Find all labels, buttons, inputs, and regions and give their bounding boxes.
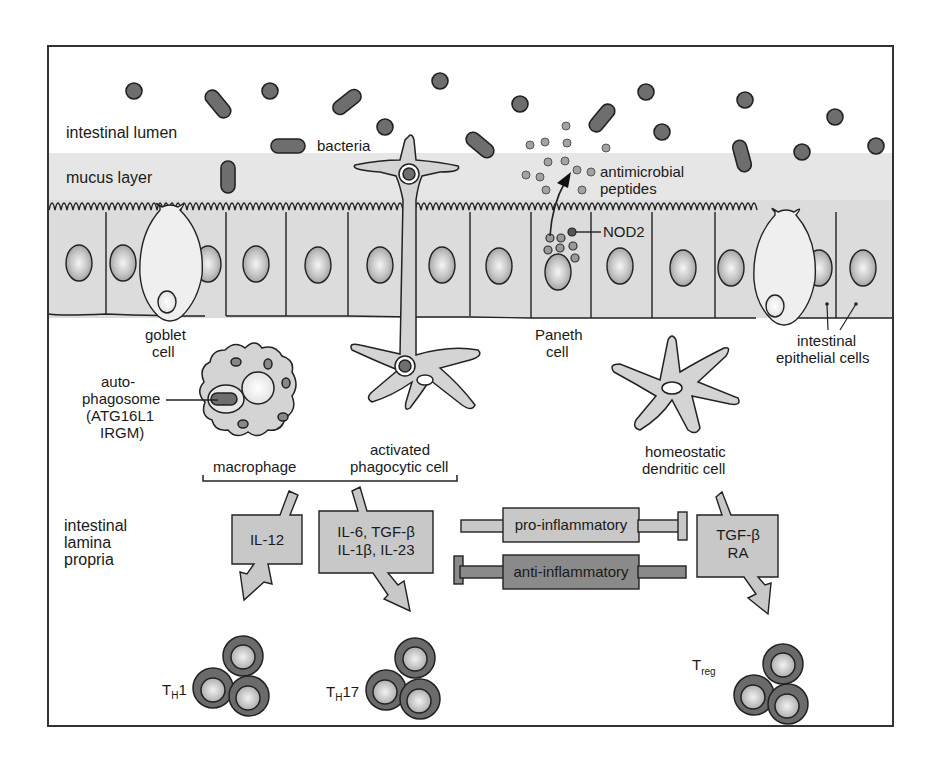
homeostatic-label: homeostatic <box>645 443 726 460</box>
pro-inflammatory-label: pro-inflammatory <box>515 516 628 533</box>
bacteria-label: bacteria <box>317 137 371 154</box>
macrophage-label: macrophage <box>213 458 296 475</box>
paneth-cell-label: cell <box>546 343 569 360</box>
treg-cytokines-line-1: TGF-β <box>716 526 760 543</box>
peptides-label: peptides <box>600 180 657 197</box>
activated-label: activated <box>370 441 430 458</box>
nod2-marker <box>568 228 576 236</box>
figure-frame <box>48 46 893 726</box>
autophagosome-label-2: phagosome <box>82 390 160 407</box>
intestinal-epithelial-label: intestinal <box>797 332 856 349</box>
autophagosome-label-1: auto- <box>101 373 135 390</box>
autophagosome-label-4: IRGM) <box>100 424 144 441</box>
intestinal-lumen-label: intestinal lumen <box>66 124 177 141</box>
phagocytic-cell-label: phagocytic cell <box>350 458 448 475</box>
anti-inflammatory-label: anti-inflammatory <box>513 563 629 580</box>
pointer-dot <box>854 302 858 306</box>
th17-cytokines-line-2: IL-1β, IL-23 <box>338 541 415 558</box>
pointer-dot <box>825 302 829 306</box>
lamina-label-2: lamina <box>64 534 111 551</box>
th17-cytokines-line-1: IL-6, TGF-β <box>337 523 415 540</box>
dendritic-cell-label: dendritic cell <box>642 460 725 477</box>
macrophage <box>200 343 296 436</box>
antimicrobial-label: antimicrobial <box>600 163 684 180</box>
treg-cytokines-line-2: RA <box>728 544 749 561</box>
nod2-label: NOD2 <box>603 223 645 240</box>
mucus-layer <box>49 153 892 203</box>
lamina-label-3: propria <box>64 551 114 568</box>
il12-box-label: IL-12 <box>250 531 284 548</box>
epithelial-cells-label: epithelial cells <box>776 349 869 366</box>
lamina-label-1: intestinal <box>64 517 127 534</box>
mucus-layer-label: mucus layer <box>66 169 153 186</box>
paneth-label: Paneth <box>535 326 583 343</box>
diagram-canvas: NOD2 <box>0 0 930 761</box>
autophagosome-label-3: (ATG16L1 <box>86 407 154 424</box>
goblet-label: goblet <box>145 326 187 343</box>
goblet-cell-label: cell <box>152 343 175 360</box>
